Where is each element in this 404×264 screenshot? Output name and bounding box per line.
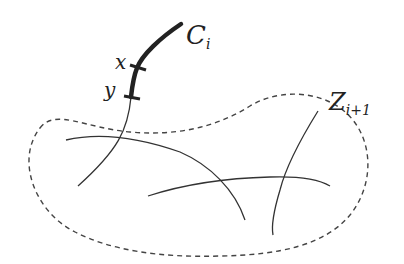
label-z: Zi+1 bbox=[328, 88, 371, 118]
label-x: x bbox=[115, 50, 126, 74]
region-z-boundary bbox=[29, 94, 368, 256]
label-y: y bbox=[103, 78, 116, 102]
curve-c bbox=[272, 111, 318, 235]
curve-a bbox=[66, 136, 245, 220]
label-ci: Ci bbox=[186, 20, 210, 52]
curve-ci bbox=[131, 24, 181, 97]
curve-ci-continuation bbox=[78, 97, 131, 186]
tick-y bbox=[124, 96, 140, 99]
diagram-svg: Ci x y Zi+1 bbox=[0, 0, 404, 264]
curve-b bbox=[148, 177, 330, 196]
diagram-canvas: Ci x y Zi+1 bbox=[0, 0, 404, 264]
